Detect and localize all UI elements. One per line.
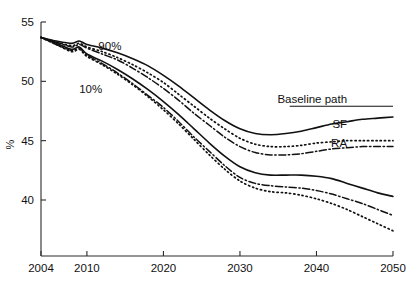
series-annotation-label: SF bbox=[332, 118, 347, 130]
y-axis-title: % bbox=[4, 140, 16, 150]
line-chart-svg: 40455055 200420102020203020402050 90%10%… bbox=[0, 0, 415, 289]
series-annotation-label: 10% bbox=[79, 83, 102, 95]
x-tick-label: 2020 bbox=[151, 262, 177, 274]
chart-container: 40455055 200420102020203020402050 90%10%… bbox=[0, 0, 415, 289]
y-axis-ticks: 40455055 bbox=[21, 16, 46, 206]
x-tick-label: 2040 bbox=[304, 262, 330, 274]
axes: 40455055 200420102020203020402050 bbox=[21, 16, 406, 274]
x-tick-label: 2004 bbox=[28, 262, 54, 274]
x-tick-label: 2010 bbox=[74, 262, 100, 274]
x-tick-label: 2030 bbox=[227, 262, 253, 274]
y-tick-label: 45 bbox=[21, 135, 34, 147]
y-tick-label: 55 bbox=[21, 16, 34, 28]
x-axis-ticks: 200420102020203020402050 bbox=[28, 251, 406, 274]
x-tick-label: 2050 bbox=[380, 262, 406, 274]
series-line bbox=[41, 37, 393, 230]
annotations-group: 90%10%Baseline pathSFRA bbox=[79, 40, 347, 148]
series-annotation-label: RA bbox=[331, 137, 347, 149]
y-tick-label: 50 bbox=[21, 75, 34, 87]
series-annotation-label: 90% bbox=[98, 40, 121, 52]
y-tick-label: 40 bbox=[21, 194, 34, 206]
data-series-group bbox=[41, 37, 393, 230]
series-annotation-label: Baseline path bbox=[277, 93, 347, 105]
